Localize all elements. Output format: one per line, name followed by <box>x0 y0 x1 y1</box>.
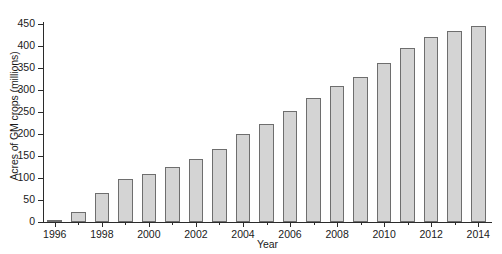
bar <box>353 77 368 222</box>
bar <box>71 212 86 222</box>
y-tick-label: 150 <box>17 149 35 161</box>
x-tick-mark <box>196 222 197 227</box>
bar-chart-figure: Acres of GM crops (millions) 05010015020… <box>0 0 502 254</box>
x-tick-minor-mark <box>361 222 362 225</box>
x-axis-line <box>43 222 492 223</box>
bar <box>189 159 204 222</box>
bar <box>447 31 462 222</box>
y-tick-mark <box>38 222 43 223</box>
bar <box>330 86 345 222</box>
y-tick-label: 300 <box>17 83 35 95</box>
x-tick-mark <box>431 222 432 227</box>
x-tick-mark <box>384 222 385 227</box>
bar <box>118 179 133 222</box>
x-tick-minor-mark <box>219 222 220 225</box>
x-tick-mark <box>478 222 479 227</box>
bar <box>95 193 110 222</box>
y-tick-label: 350 <box>17 61 35 73</box>
bar <box>212 149 227 222</box>
y-tick-label: 250 <box>17 105 35 117</box>
x-tick-minor-mark <box>125 222 126 225</box>
bar <box>259 124 274 222</box>
x-tick-mark <box>149 222 150 227</box>
x-tick-minor-mark <box>172 222 173 225</box>
plot-area <box>43 24 490 222</box>
x-axis-title: Year <box>43 238 492 250</box>
x-tick-minor-mark <box>408 222 409 225</box>
bar <box>377 63 392 222</box>
bar <box>471 26 486 222</box>
bar <box>306 98 321 222</box>
x-tick-mark <box>55 222 56 227</box>
x-tick-minor-mark <box>455 222 456 225</box>
y-tick-label: 450 <box>17 17 35 29</box>
y-tick-label: 400 <box>17 39 35 51</box>
y-tick-label: 0 <box>29 215 35 227</box>
y-tick-label: 100 <box>17 171 35 183</box>
bar <box>165 167 180 222</box>
x-tick-mark <box>243 222 244 227</box>
y-tick-label: 200 <box>17 127 35 139</box>
x-tick-minor-mark <box>314 222 315 225</box>
bar <box>236 134 251 222</box>
x-tick-mark <box>337 222 338 227</box>
x-tick-mark <box>102 222 103 227</box>
bar <box>400 48 415 222</box>
x-tick-mark <box>290 222 291 227</box>
bar <box>283 111 298 222</box>
bar <box>142 174 157 222</box>
bar <box>424 37 439 222</box>
x-tick-minor-mark <box>267 222 268 225</box>
y-tick-label: 50 <box>23 193 35 205</box>
x-tick-minor-mark <box>78 222 79 225</box>
